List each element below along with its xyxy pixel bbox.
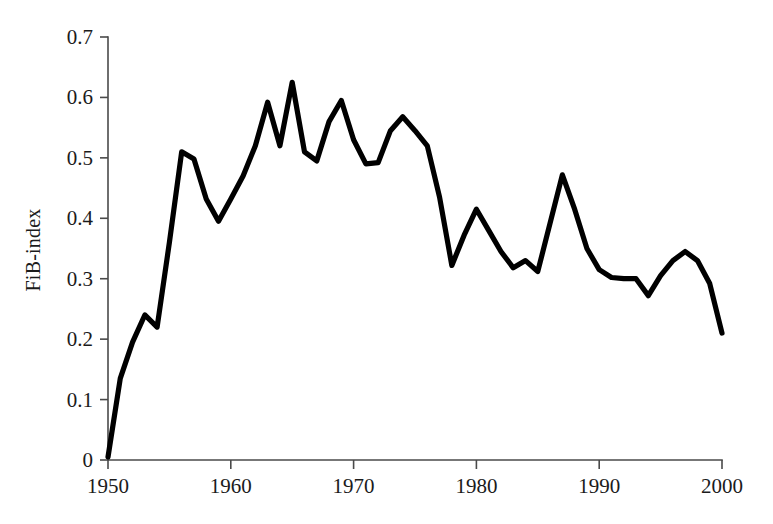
y-tick-label: 0.7 bbox=[67, 25, 93, 49]
y-tick-label: 0.2 bbox=[67, 327, 93, 351]
x-tick-label: 2000 bbox=[701, 474, 743, 498]
x-tick-label: 1990 bbox=[578, 474, 620, 498]
x-tick-label: 1960 bbox=[210, 474, 252, 498]
x-tick-label: 1950 bbox=[87, 474, 129, 498]
y-tick-label: 0.1 bbox=[67, 388, 93, 412]
x-tick-label: 1970 bbox=[333, 474, 375, 498]
y-tick-label: 0 bbox=[83, 448, 94, 472]
y-tick-label: 0.6 bbox=[67, 85, 93, 109]
chart-container: 00.10.20.30.40.50.60.7 19501960197019801… bbox=[0, 0, 773, 524]
y-axis-title: FiB-index bbox=[22, 209, 44, 292]
plot-background bbox=[0, 0, 773, 524]
y-axis-title-group: FiB-index bbox=[22, 209, 44, 292]
y-tick-label: 0.5 bbox=[67, 146, 93, 170]
x-tick-label: 1980 bbox=[455, 474, 497, 498]
y-tick-label: 0.4 bbox=[67, 206, 94, 230]
y-tick-label: 0.3 bbox=[67, 267, 93, 291]
fib-index-line-chart: 00.10.20.30.40.50.60.7 19501960197019801… bbox=[0, 0, 773, 524]
